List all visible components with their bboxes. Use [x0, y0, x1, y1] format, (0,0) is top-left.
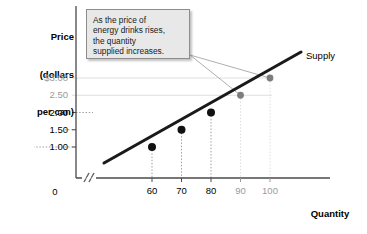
y-axis-title-line-1: Price — [8, 31, 74, 44]
x-axis-tick-label: 100 — [257, 186, 283, 196]
y-axis-tick-label: 2.50 — [22, 90, 68, 100]
gridlines-vertical — [152, 78, 270, 178]
supply-curve-label: Supply — [306, 50, 335, 61]
x-axis-tick-label: 60 — [139, 186, 165, 196]
annotation-callout-text: As the price of energy drinks rises, the… — [93, 15, 187, 57]
data-point — [207, 109, 215, 117]
x-axis-tick-label: 80 — [198, 186, 224, 196]
origin-label: 0 — [48, 186, 62, 197]
data-point — [237, 92, 244, 99]
x-axis-tick-label: 70 — [169, 186, 195, 196]
x-axis-break-icon — [82, 173, 96, 182]
supply-curve-line — [104, 52, 301, 163]
supply-curve-figure: Price (dollars per can) Quantity (millio… — [0, 0, 367, 234]
data-points — [148, 75, 273, 151]
y-axis-tick-label: 2.00 — [22, 108, 68, 118]
y-axis-tick-label: 1.00 — [22, 142, 68, 152]
y-axis-tick-label: 1.50 — [22, 125, 68, 135]
data-point — [178, 126, 186, 134]
data-point — [267, 75, 274, 82]
x-axis-title: Quantity (millions of cans per day) — [294, 184, 366, 234]
data-point — [148, 143, 156, 151]
annotation-callout-box: As the price of energy drinks rises, the… — [86, 9, 190, 59]
x-axis-tick-label: 90 — [228, 186, 254, 196]
x-axis-title-line-1: Quantity — [294, 208, 366, 220]
y-axis-tick-label: $3.00 — [22, 73, 68, 83]
